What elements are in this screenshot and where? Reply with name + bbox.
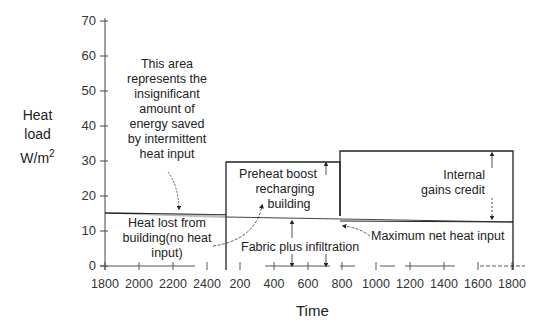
y-tick-70: 70 bbox=[72, 13, 96, 28]
y-tick-0: 0 bbox=[72, 258, 96, 273]
y-tick-50: 50 bbox=[72, 83, 96, 98]
preheat-annotation: Preheat boost recharging building bbox=[228, 167, 328, 212]
y-axis-ticks bbox=[100, 21, 108, 266]
y-axis-label: Heat load W/m2 bbox=[10, 106, 65, 168]
y-tick-20: 20 bbox=[72, 188, 96, 203]
x-tick: 1800 bbox=[492, 277, 532, 291]
y-tick-60: 60 bbox=[72, 48, 96, 63]
energy-saved-annotation: This area represents the insignificant a… bbox=[112, 57, 222, 162]
max-net-arrow bbox=[344, 226, 370, 236]
y-label-unit: W/m2 bbox=[10, 144, 65, 168]
y-tick-40: 40 bbox=[72, 118, 96, 133]
y-label-load: load bbox=[10, 125, 65, 144]
energy-saved-arrow bbox=[168, 172, 179, 208]
x-axis-title: Time bbox=[296, 302, 329, 319]
heat-lost-annotation: Heat lost from building(no heat input) bbox=[112, 216, 222, 261]
fabric-annotation: Fabric plus infiltration bbox=[241, 240, 359, 255]
y-tick-10: 10 bbox=[72, 223, 96, 238]
max-net-heat-annotation: Maximum net heat input bbox=[371, 229, 504, 244]
y-tick-30: 30 bbox=[72, 153, 96, 168]
internal-gains-annotation: Internal gains credit bbox=[410, 168, 485, 198]
y-label-heat: Heat bbox=[10, 106, 65, 125]
